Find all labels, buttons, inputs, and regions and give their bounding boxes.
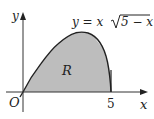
x-axis-arrow-icon <box>140 89 148 95</box>
equation-radicand: 5 − x <box>121 15 153 29</box>
region-r-fill <box>23 32 111 92</box>
region-label: R <box>61 63 72 78</box>
equation-lhs: y = x <box>71 15 103 29</box>
origin-label: O <box>9 95 20 110</box>
y-axis-arrow-icon <box>20 12 26 20</box>
x-axis-label: x <box>140 97 148 112</box>
region-diagram: y x 5 O R y = x 5 − x <box>0 0 154 119</box>
y-axis-label: y <box>11 9 19 23</box>
x-tick-5: 5 <box>107 97 115 111</box>
